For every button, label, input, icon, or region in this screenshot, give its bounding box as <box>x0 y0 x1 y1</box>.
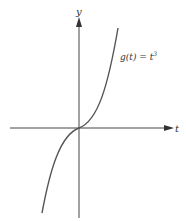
y-axis-label: y <box>75 6 82 17</box>
t-axis-label: t <box>175 123 180 134</box>
function-label: g(t) = t3 <box>120 50 157 62</box>
cubic-curve <box>42 28 118 213</box>
t-axis-arrow-icon <box>164 125 174 131</box>
cubic-graph: y t g(t) = t3 <box>0 0 186 221</box>
y-axis-arrow-icon <box>76 17 82 27</box>
